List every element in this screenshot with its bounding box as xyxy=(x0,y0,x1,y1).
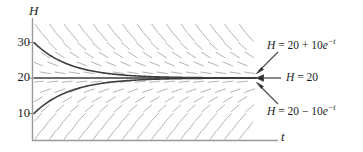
slope-field-dash xyxy=(137,113,144,121)
slope-field-dash xyxy=(64,24,70,32)
slope-field-dash xyxy=(99,89,109,92)
slope-field-dash xyxy=(215,72,225,74)
slope-field-dash xyxy=(137,24,143,32)
annotation-lower-curve: H = 20 − 10e−t xyxy=(267,104,336,117)
annotation-lower-const: 20 xyxy=(288,105,300,117)
slope-field-dash xyxy=(33,62,43,66)
slope-field-group xyxy=(33,24,255,139)
slope-field-dash xyxy=(144,33,151,41)
slope-field-dash xyxy=(106,62,116,66)
slope-field-dash xyxy=(223,81,233,82)
slope-field-dash xyxy=(78,113,85,121)
arrow-lower xyxy=(257,83,279,105)
annotation-upper-eq: = xyxy=(275,39,287,51)
slope-field-dash xyxy=(151,43,159,50)
slope-field-dash xyxy=(179,81,189,82)
slope-field-dash xyxy=(196,24,202,32)
slope-field-dash xyxy=(209,43,217,50)
slope-field-dash xyxy=(56,105,64,112)
slope-field-dash xyxy=(152,131,158,139)
annotation-lower-op: − xyxy=(299,105,311,117)
slope-field-dash xyxy=(245,89,255,92)
slope-field-dash xyxy=(150,81,160,82)
slope-field-dash xyxy=(70,52,79,58)
slope-field-dash xyxy=(100,105,108,112)
slope-field-dash xyxy=(77,81,87,82)
slope-field-dash xyxy=(123,24,129,32)
y-tick-label-30: 30 xyxy=(8,36,30,49)
slope-field-dash xyxy=(151,113,158,121)
annotation-upper-op: + xyxy=(299,39,311,51)
slope-field-dash xyxy=(78,43,86,50)
slope-field-dash xyxy=(50,131,56,139)
slope-field-dash xyxy=(174,122,180,130)
slope-field-dash xyxy=(216,89,226,92)
slope-field-dash xyxy=(166,131,172,139)
slope-field-dash xyxy=(64,113,71,121)
slope-field-dash xyxy=(57,122,63,130)
slope-field-dash xyxy=(181,131,187,139)
slope-field-dash xyxy=(92,97,101,102)
annotation-arrows xyxy=(257,52,282,104)
slope-field-dash xyxy=(123,131,129,139)
slope-field-dash xyxy=(79,24,85,32)
slope-field-dash xyxy=(135,62,145,66)
y-tick-label-20: 20 xyxy=(8,71,30,84)
slope-field-dash xyxy=(91,81,101,82)
slope-field-dash xyxy=(113,72,123,74)
annotation-upper-const: 20 xyxy=(288,39,300,51)
slope-field-dash xyxy=(217,122,223,130)
slope-field-dash xyxy=(193,81,203,82)
slope-field-dash xyxy=(173,33,180,41)
slope-field-dash xyxy=(62,81,72,82)
slope-field-dash xyxy=(55,72,65,74)
slope-field-dash xyxy=(166,43,174,50)
slope-field-dash xyxy=(49,43,57,50)
slope-field-dash xyxy=(231,105,239,112)
slope-field-dash xyxy=(208,81,218,82)
slope-field-dash xyxy=(113,89,123,92)
slope-field-dash xyxy=(223,97,232,102)
slope-field-dash xyxy=(33,81,43,82)
slope-field-dash xyxy=(217,33,224,41)
slope-field-dash xyxy=(108,131,114,139)
slope-field-dash xyxy=(121,97,130,102)
slope-field-dash xyxy=(246,33,253,41)
slope-field-dash xyxy=(180,43,188,50)
slope-field-dash xyxy=(77,97,86,102)
slope-field-dash xyxy=(50,24,56,32)
slope-field-dash xyxy=(92,62,102,66)
slope-field-dash xyxy=(165,62,175,66)
slope-field-dash xyxy=(231,52,240,58)
slope-field-dash xyxy=(42,122,48,130)
annotation-lower-eq: = xyxy=(275,105,287,117)
annotation-equilibrium: H = 20 xyxy=(286,72,318,84)
annotation-upper-exponent: −t xyxy=(328,37,336,46)
slope-field-dash xyxy=(71,122,77,130)
annotation-upper-coef: 10 xyxy=(311,39,323,51)
slope-field-dash xyxy=(245,52,254,58)
slope-field-dash xyxy=(210,24,216,32)
slope-field-dash xyxy=(93,24,99,32)
slope-field-dash xyxy=(129,105,137,112)
slope-field-dash xyxy=(79,131,85,139)
slope-field-dash xyxy=(225,24,231,32)
slope-field-dash xyxy=(195,113,202,121)
slope-field-dash xyxy=(239,24,245,32)
annotation-upper-curve: H = 20 + 10e−t xyxy=(267,38,336,51)
slope-field-dash xyxy=(172,52,181,58)
slope-field-dash xyxy=(188,33,195,41)
slope-field-dash xyxy=(230,72,240,74)
slope-field-dash xyxy=(56,33,63,41)
slope-field-dash xyxy=(208,62,218,66)
slope-field-dash xyxy=(201,72,211,74)
slope-field-dash xyxy=(77,62,87,66)
slope-field-dash xyxy=(40,89,50,92)
slope-field-dash xyxy=(239,113,246,121)
slope-field-dash xyxy=(84,72,94,74)
slope-field-dash xyxy=(143,52,152,58)
figure-slope-field: H t 30 20 10 H = 20 + 10e−t H = 20 H = 2… xyxy=(0,0,363,152)
slope-field-dash xyxy=(172,72,182,74)
slope-field-dash xyxy=(115,33,122,41)
slope-field-dash xyxy=(47,81,57,82)
